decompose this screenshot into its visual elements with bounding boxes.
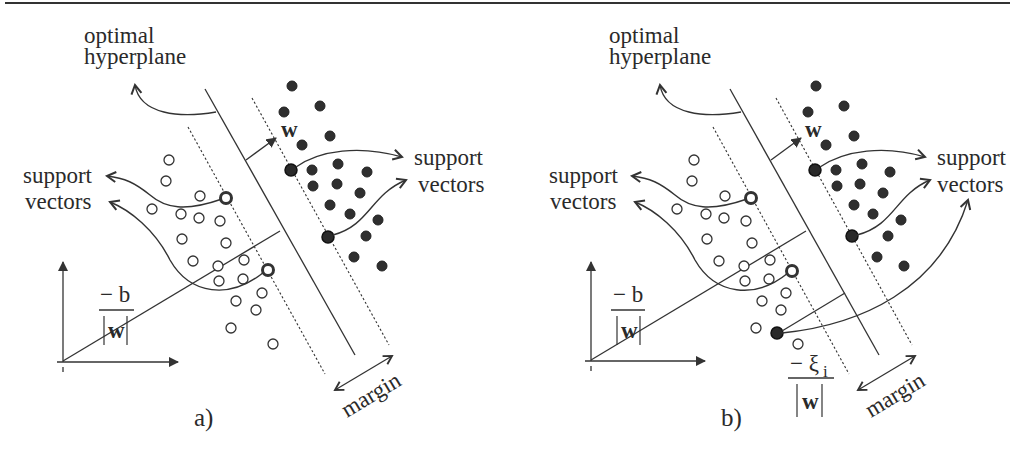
- sv-pointer-arrow: [857, 180, 930, 235]
- svg-text:w: w: [802, 389, 819, 414]
- margin-label: margin: [861, 367, 930, 422]
- hyperplane-pointer-arrow: [660, 85, 741, 115]
- svg-text:vectors: vectors: [550, 189, 616, 214]
- support-vector-negative: [746, 193, 757, 204]
- support-vector-positive: [322, 231, 334, 243]
- panel-b-caption: b): [721, 404, 742, 432]
- panel-b: − b w w optimal hyperplane: [549, 23, 1007, 432]
- support-vector-positive: [285, 164, 297, 176]
- panel-a: − b w w optimal hyperplane: [23, 23, 484, 432]
- support-vectors-label-right: support: [414, 145, 484, 170]
- w-vector-label: w: [805, 117, 822, 142]
- hyperplane-pointer-arrow: [135, 85, 216, 115]
- panel-a-caption: a): [194, 404, 213, 432]
- svg-text:vectors: vectors: [418, 172, 484, 197]
- svg-text:− b: − b: [613, 282, 643, 307]
- slack-distance-line: [782, 293, 845, 331]
- margin-boundary-right: [252, 98, 389, 345]
- svg-text:w: w: [621, 318, 638, 343]
- axes: [585, 262, 705, 371]
- w-vector-label: w: [281, 117, 298, 142]
- svg-text:− ξ: − ξ: [790, 351, 819, 376]
- bias-label: − b w: [99, 282, 134, 345]
- svg-text:vectors: vectors: [25, 189, 91, 214]
- svg-text:hyperplane: hyperplane: [84, 44, 186, 69]
- support-vectors-label-left: support: [23, 163, 93, 188]
- sv-pointer-arrow: [333, 180, 406, 235]
- normal-line: [63, 231, 280, 361]
- support-vector-positive: [846, 230, 858, 242]
- slack-support-vector: [771, 327, 783, 339]
- axes: [57, 262, 178, 372]
- support-vector-negative: [787, 266, 798, 277]
- support-vector-positive: [809, 164, 821, 176]
- slack-label: − ξ i w: [788, 351, 834, 417]
- svm-figure: − b w w optimal hyperplane: [0, 0, 1032, 462]
- support-vector-negative: [221, 193, 232, 204]
- margin-boundary-right: [776, 98, 912, 345]
- optimal-hyperplane: [205, 89, 355, 355]
- w-vector-arrow: [771, 138, 801, 160]
- svg-text:vectors: vectors: [937, 172, 1003, 197]
- support-vector-negative: [263, 265, 274, 276]
- svm-diagram: − b w w optimal hyperplane: [0, 0, 1032, 462]
- w-vector-arrow: [246, 138, 276, 160]
- svg-text:hyperplane: hyperplane: [609, 44, 711, 69]
- svg-text:w: w: [108, 318, 125, 343]
- support-vectors-label-left: support: [549, 163, 619, 188]
- support-vectors-label-right: support: [937, 145, 1007, 170]
- margin-label: margin: [337, 367, 406, 422]
- sv-pointer-arrow: [782, 200, 968, 333]
- bias-label: − b w: [611, 282, 645, 345]
- svg-text:− b: − b: [100, 282, 130, 307]
- margin-boundary-left: [188, 127, 325, 374]
